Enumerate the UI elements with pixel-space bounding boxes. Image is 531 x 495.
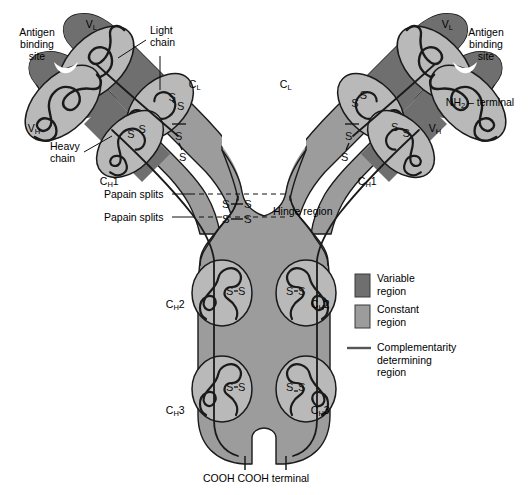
ch1-left-ss-label2: S [138,123,145,135]
label-heavy-chain: Heavy chain [50,140,80,164]
label-light-chain: Light chain [150,24,175,48]
label-vl-right: VL [436,6,453,34]
label-papain-splits-1: Papain splits [104,188,164,200]
label-antigen-binding-site-left: Antigen binding site [6,26,68,62]
cl-right-ss-label: S [360,89,367,101]
label-antigen-binding-site-right: Antigen binding site [455,26,517,62]
domain-ch3-left: S S [192,356,252,422]
legend-label-constant-region: Constant region [377,303,419,328]
ss-left-lower: S [179,151,186,163]
cl-left-ss-label2: S [177,100,184,112]
label-ch1-right-num: 1 [371,175,377,187]
ch3-left-ss-label2: S [238,381,245,393]
label-nh2-terminal: NH2 – terminal [440,84,514,112]
label-ch2-left-num: 2 [179,298,185,310]
hinge-ss-1-right: S [244,198,252,210]
label-vl-left: VL [80,6,97,34]
label-vl-left-text: V [86,18,93,30]
label-vl-right-sub: L [449,23,453,32]
legend-label-variable-region: Variable region [377,272,415,297]
label-vh-right-sub: H [436,127,441,136]
label-ch1-right: CH1 [352,163,377,191]
ch2-left-ss-label2: S [238,285,245,297]
label-ch1-left-num: 1 [113,175,119,187]
cl-right-ss-label2: S [351,97,358,109]
ch1-left-ss-label: S [127,128,134,140]
label-vh-right-text: V [429,122,436,134]
legend-swatch-constant [355,305,370,328]
hinge-ss-2-left: S [222,213,230,225]
hinge-ss-2-right: S [244,213,252,225]
legend-label-cdr-region: Complementarity determining region [377,341,456,379]
label-hinge-region: Hinge region [273,205,333,217]
label-vl-right-text: V [442,18,449,30]
label-papain-splits-2: Papain splits [104,211,164,223]
label-vh-left-text: V [28,122,35,134]
label-ch2-right-num: 2 [324,298,330,310]
label-cl-left: CL [183,66,201,94]
hinge-ss-1-left: S [222,198,230,210]
label-nh2-rest: – terminal [465,96,514,108]
label-ch3-right: CH3 [305,392,330,420]
ss-left-upper: S [175,130,182,142]
label-vl-left-sub: L [93,23,97,32]
domain-ch2-left: S S [192,260,252,326]
ch3-left-ss-label: S [226,381,233,393]
label-vh-right: VH [423,110,441,138]
label-cl-right: CL [274,66,292,94]
ch2-left-ss-label: S [226,285,233,297]
ch3-right-ss-label: S [286,381,293,393]
legend-markers [347,274,371,348]
ch1-right-ss-label2: S [391,121,398,133]
label-ch3-right-num: 3 [324,404,330,416]
label-cl-left-sub: L [196,83,200,92]
ss-right-upper: S [345,130,352,142]
label-ch3-left: CH3 [160,392,185,420]
ch1-right-ss-label: S [402,127,409,139]
label-cooh-terminal: COOH COOH terminal [203,472,309,484]
ch2-right-ss-label: S [286,285,293,297]
antibody-structure-svg: S S S S S S S S S S [0,0,531,495]
label-ch1-left: CH1 [94,163,119,191]
ss-right-lower: S [341,151,348,163]
label-nh2-text: NH [446,96,461,108]
label-vh-left-sub: H [35,127,40,136]
label-ch2-right: CH2 [305,286,330,314]
label-cl-right-sub: L [287,83,291,92]
antibody-diagram: S S S S S S S S S S [0,0,531,495]
label-ch3-left-num: 3 [179,404,185,416]
legend-swatch-variable [355,274,370,297]
label-ch2-left: CH2 [160,286,185,314]
label-vh-left: VH [22,110,40,138]
